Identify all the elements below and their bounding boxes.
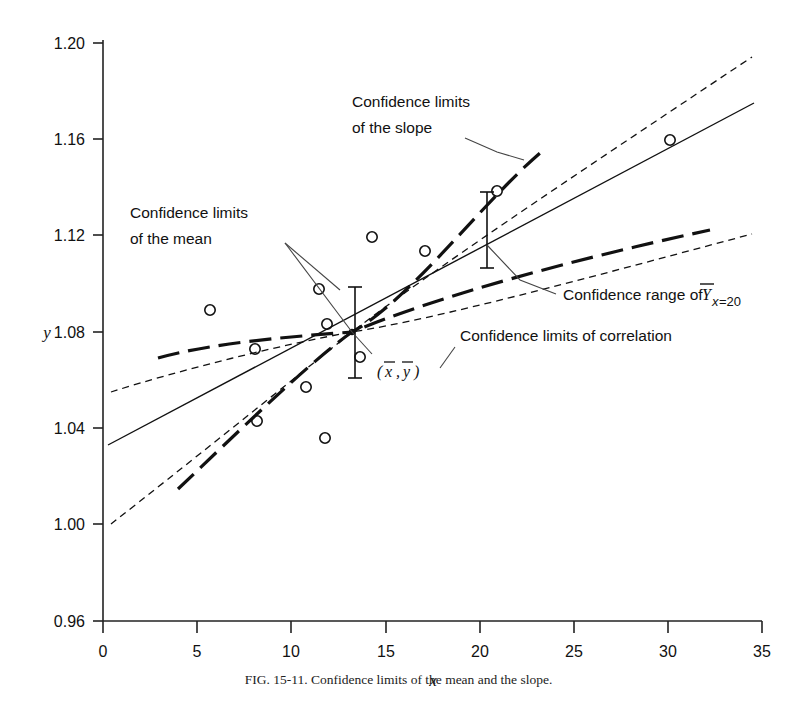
leader-slope — [465, 138, 524, 160]
data-point — [301, 382, 311, 392]
leader-mean-2 — [285, 243, 352, 332]
y-tick-label-0.96: 0.96 — [54, 613, 85, 630]
y-tick-label-1.12: 1.12 — [54, 227, 85, 244]
x-tick-label-15: 15 — [377, 643, 395, 660]
annotation-centroid-label: ( x , y ) — [377, 362, 419, 381]
y-tick-label-1.00: 1.00 — [54, 516, 85, 533]
data-point — [492, 186, 502, 196]
centroid-x: x — [384, 363, 392, 380]
centroid-comma: , — [396, 363, 400, 380]
x-tick-label-0: 0 — [99, 643, 108, 660]
annotation-correlation: Confidence limits of correlation — [460, 327, 672, 344]
chart-canvas: 1.20 1.16 1.12 1.08 1.04 1.00 0.96 0 5 1… — [0, 0, 797, 704]
data-point — [367, 232, 377, 242]
data-point — [420, 246, 430, 256]
annotation-slope-line2: of the slope — [352, 119, 432, 136]
y-tick-label-1.16: 1.16 — [54, 131, 85, 148]
annotation-range-subscript: x — [711, 294, 719, 309]
y-axis-ticks — [93, 43, 103, 621]
annotation-slope-line1: Confidence limits — [352, 93, 470, 110]
figure-caption: FIG. 15-11. Confidence limits of the mea… — [0, 672, 797, 688]
x-tick-label-5: 5 — [193, 643, 202, 660]
centroid-paren-open: ( — [377, 363, 384, 381]
data-point — [665, 135, 675, 145]
y-tick-label-1.04: 1.04 — [54, 420, 85, 437]
data-point — [205, 305, 215, 315]
mean-lower-curve — [111, 234, 752, 392]
x-tick-label-10: 10 — [282, 643, 300, 660]
data-point — [252, 416, 262, 426]
error-bar-x20 — [480, 192, 494, 268]
data-point — [322, 319, 332, 329]
x-tick-label-20: 20 — [471, 643, 489, 660]
figure-container: 1.20 1.16 1.12 1.08 1.04 1.00 0.96 0 5 1… — [0, 0, 797, 704]
annotation-range-equals: =20 — [719, 294, 741, 309]
annotation-mean-line2: of the mean — [130, 230, 212, 247]
y-axis-label: y — [41, 323, 51, 342]
slope-lower-curve — [178, 230, 710, 489]
leader-mean — [285, 243, 340, 290]
x-axis-ticks — [103, 621, 762, 633]
x-tick-label-25: 25 — [565, 643, 583, 660]
x-tick-label-30: 30 — [659, 643, 677, 660]
regression-line — [108, 103, 754, 445]
y-tick-label-1.08: 1.08 — [54, 324, 85, 341]
data-point — [355, 352, 365, 362]
y-tick-label-1.20: 1.20 — [54, 35, 85, 52]
annotation-range-pre: Confidence range of — [563, 286, 703, 303]
annotation-mean-line1: Confidence limits — [130, 204, 248, 221]
centroid-paren-close: ) — [413, 363, 419, 381]
centroid-y: y — [401, 363, 411, 381]
leader-correlation — [440, 347, 455, 368]
data-point — [320, 433, 330, 443]
x-tick-label-35: 35 — [753, 643, 771, 660]
annotation-confidence-range: Confidence range of Y x =20 — [563, 284, 741, 309]
